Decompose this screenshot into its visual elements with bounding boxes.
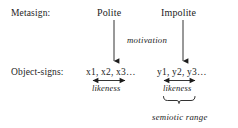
diagram-connectors [0,0,238,128]
semiotic-diagram: Metasign: Object-signs: Polite Impolite … [0,0,238,128]
brace-semiotic-range [164,97,196,104]
